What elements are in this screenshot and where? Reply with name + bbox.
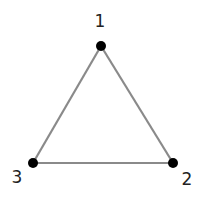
node-label-2: 2 — [182, 169, 193, 189]
triangle-graph: 1 2 3 — [0, 0, 211, 200]
edge-3-1 — [33, 46, 101, 163]
edges — [33, 46, 173, 163]
nodes — [28, 41, 178, 168]
edge-1-2 — [101, 46, 173, 163]
node-2 — [168, 158, 178, 168]
node-label-3: 3 — [12, 167, 23, 187]
node-1 — [96, 41, 106, 51]
node-3 — [28, 158, 38, 168]
node-label-1: 1 — [95, 11, 106, 31]
